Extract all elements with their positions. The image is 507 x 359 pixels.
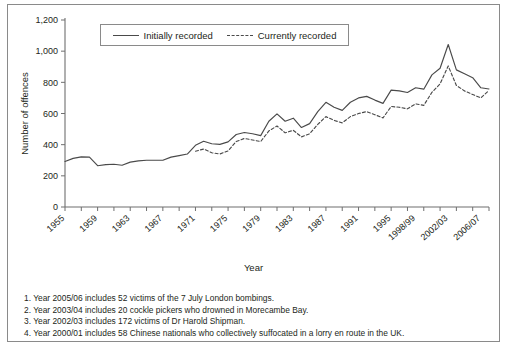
y-tick-label: 1,200: [35, 15, 58, 25]
x-tick-label: 2006/07: [451, 213, 482, 242]
y-tick-label: 200: [43, 171, 58, 181]
y-tick-label: 600: [43, 109, 58, 119]
x-axis: 1955195919631967197119751979198319871991…: [45, 207, 489, 242]
y-axis: 02004006008001,0001,200: [35, 15, 65, 212]
y-tick-label: 400: [43, 140, 58, 150]
x-tick-label: 1991: [338, 213, 360, 234]
x-tick-label: 1963: [110, 213, 132, 234]
footnote-item: 4. Year 2000/01 includes 58 Chinese nati…: [24, 328, 484, 340]
x-axis-title: Year: [0, 262, 507, 273]
series-line-solid: [65, 44, 489, 165]
x-tick-label: 1955: [45, 213, 67, 234]
legend-item-initially-recorded: Initially recorded: [113, 30, 213, 41]
y-axis-title-text: Number of offences: [19, 72, 30, 155]
figure-container: 02004006008001,0001,200 1955195919631967…: [0, 0, 507, 359]
y-tick-label: 0: [53, 202, 58, 212]
chart-series: [65, 44, 489, 165]
x-tick-label: 1987: [306, 213, 328, 234]
footnote-item: 1. Year 2005/06 includes 52 victims of t…: [24, 293, 484, 305]
y-tick-label: 800: [43, 78, 58, 88]
x-tick-label: 1983: [273, 213, 295, 234]
y-tick-label: 1,000: [35, 46, 58, 56]
x-tick-label: 1998/99: [386, 213, 417, 242]
footnote-item: 2. Year 2003/04 includes 20 cockle picke…: [24, 305, 484, 317]
chart-legend: Initially recorded Currently recorded: [100, 24, 349, 46]
y-axis-title: Number of offences: [19, 72, 30, 155]
legend-swatch-dashed-icon: [227, 35, 253, 36]
footnotes-list: 1. Year 2005/06 includes 52 victims of t…: [24, 293, 484, 339]
x-tick-label: 1967: [143, 213, 165, 234]
x-tick-label: 1975: [208, 213, 230, 234]
footnote-item: 3. Year 2002/03 includes 172 victims of …: [24, 316, 484, 328]
legend-label-initially-recorded: Initially recorded: [144, 30, 213, 41]
legend-swatch-solid-icon: [113, 35, 139, 36]
x-tick-label: 2002/03: [419, 213, 450, 242]
legend-item-currently-recorded: Currently recorded: [227, 30, 337, 41]
legend-label-currently-recorded: Currently recorded: [258, 30, 337, 41]
x-tick-label: 1971: [175, 213, 197, 234]
x-tick-label: 1959: [77, 213, 99, 234]
x-tick-label: 1979: [240, 213, 262, 234]
